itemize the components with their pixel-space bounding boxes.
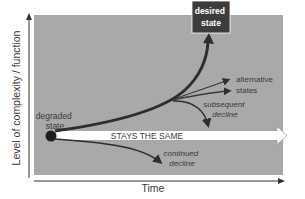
restoration-trajectory-diagram: Level of complexity / function Time STAY… (0, 0, 305, 199)
x-axis-arrowhead-icon (278, 178, 285, 184)
degraded-state-dot (46, 131, 57, 142)
desired-state-box: desired state (192, 1, 230, 33)
y-axis (26, 13, 32, 178)
plot-panel (34, 15, 283, 175)
x-axis-label: Time (142, 182, 165, 194)
y-axis-arrowhead-icon (26, 13, 32, 20)
stays-the-same-label: STAYS THE SAME (111, 131, 184, 141)
y-axis-label: Level of complexity / function (10, 30, 22, 165)
